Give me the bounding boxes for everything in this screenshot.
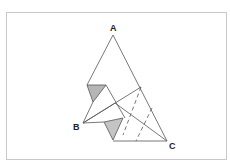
label-A: A [110, 23, 117, 33]
line-B-Q1 [83, 122, 104, 123]
geometry-diagram: A B C [0, 0, 230, 162]
label-B: B [73, 122, 80, 132]
label-C: C [169, 141, 176, 151]
shaded-triangle-lower [104, 118, 123, 140]
flap-edge-1 [106, 85, 125, 118]
shaded-triangle-upper [87, 85, 106, 102]
side-A-left [87, 35, 113, 85]
line-N-C [115, 103, 167, 141]
